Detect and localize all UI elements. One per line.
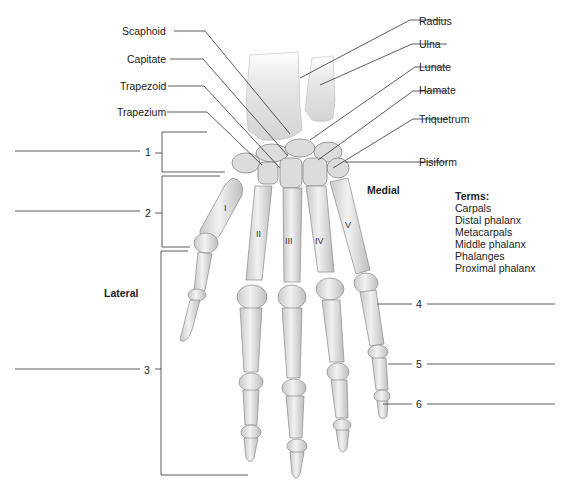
blank-number-3: 3 xyxy=(144,364,150,376)
hand-bone-diagram: Scaphoid Capitate Trapezoid Trapezium Ra… xyxy=(0,0,569,498)
label-triquetrum: Triquetrum xyxy=(419,113,469,125)
orientation-lateral: Lateral xyxy=(104,287,138,299)
term-item: Distal phalanx xyxy=(455,214,536,226)
metacarpal-numeral-2: II xyxy=(256,229,261,239)
label-ulna: Ulna xyxy=(419,38,441,50)
blank-number-1: 1 xyxy=(145,146,151,158)
blank-number-4: 4 xyxy=(416,298,422,310)
term-item: Middle phalanx xyxy=(455,238,536,250)
label-hamate: Hamate xyxy=(419,84,456,96)
label-pisiform: Pisiform xyxy=(419,156,457,168)
blank-number-5: 5 xyxy=(416,358,422,370)
term-item: Metacarpals xyxy=(455,226,536,238)
metacarpal-numeral-1: I xyxy=(224,203,227,213)
terms-title: Terms: xyxy=(455,190,536,202)
label-radius: Radius xyxy=(419,15,452,27)
terms-list: Terms: Carpals Distal phalanx Metacarpal… xyxy=(455,190,536,274)
blank-number-6: 6 xyxy=(416,398,422,410)
blank-number-2: 2 xyxy=(145,207,151,219)
term-item: Proximal phalanx xyxy=(455,262,536,274)
label-lunate: Lunate xyxy=(419,61,451,73)
metacarpal-numeral-5: V xyxy=(345,220,351,230)
label-capitate: Capitate xyxy=(127,53,166,65)
metacarpal-numeral-4: IV xyxy=(315,236,324,246)
metacarpal-numeral-3: III xyxy=(285,236,293,246)
label-trapezoid: Trapezoid xyxy=(120,80,166,92)
label-trapezium: Trapezium xyxy=(117,106,166,118)
label-scaphoid: Scaphoid xyxy=(122,25,166,37)
term-item: Carpals xyxy=(455,202,536,214)
term-item: Phalanges xyxy=(455,250,536,262)
orientation-medial: Medial xyxy=(367,184,400,196)
